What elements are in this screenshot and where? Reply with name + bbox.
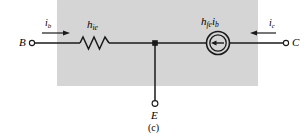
current-label-ic: ic xyxy=(269,18,275,28)
figure-container: B C E ib ic hie hfeib (c) xyxy=(0,0,308,137)
terminal-node-collector xyxy=(283,40,288,45)
current-label-ib: ib xyxy=(45,18,51,28)
terminal-label-emitter: E xyxy=(151,110,158,121)
terminal-label-base: B xyxy=(19,37,26,48)
element-label-hie: hie xyxy=(87,19,98,30)
terminal-node-emitter xyxy=(152,101,158,107)
element-label-hfe-ib: hfeib xyxy=(201,16,219,27)
figure-caption: (c) xyxy=(148,122,159,133)
terminal-label-collector: C xyxy=(292,37,299,48)
terminal-node-base xyxy=(29,40,34,45)
